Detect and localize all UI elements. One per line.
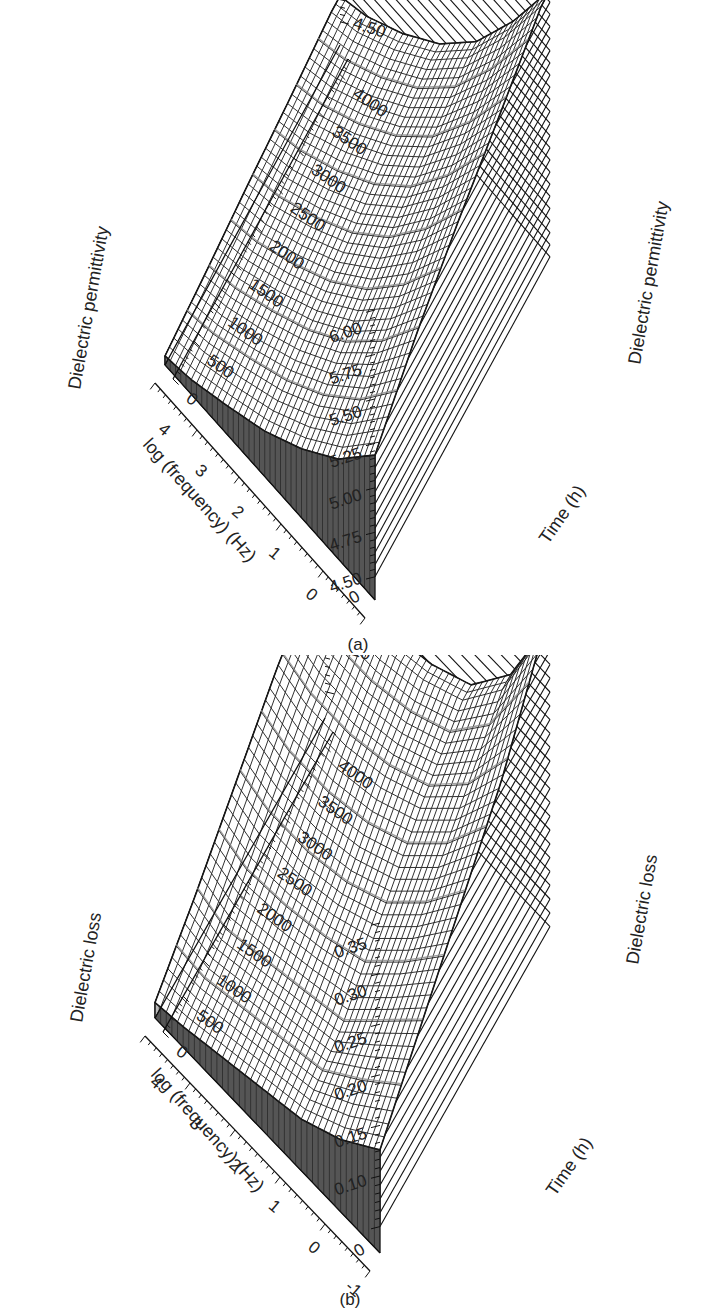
z-axis-title-right: Dielectric loss: [622, 853, 661, 966]
x-tick-label: 1: [265, 543, 284, 564]
surface-plot-permittivity: 01234050010001500200025003000350040004.5…: [0, 0, 717, 655]
chart-panel-b: -101234050010001500200025003000350040000…: [0, 655, 717, 1311]
surface-plot-loss: -101234050010001500200025003000350040000…: [0, 655, 717, 1311]
chart-panel-a: 01234050010001500200025003000350040004.5…: [0, 0, 717, 655]
caption-a: (a): [348, 635, 369, 654]
z-axis-title-right: Dielectric permittivity: [624, 200, 672, 366]
x-tick-label: 0: [304, 1237, 323, 1258]
z-axis-title-left: Dielectric permittivity: [64, 225, 112, 391]
z-axis-title-left: Dielectric loss: [66, 911, 105, 1024]
corner-zero-label: 0: [350, 1240, 368, 1261]
x-tick-label: 1: [265, 1196, 284, 1217]
caption-b: (b): [340, 1290, 361, 1309]
x-tick-label: 0: [302, 584, 321, 605]
corner-zero-label: 0: [345, 587, 363, 608]
y-axis-title: Time (h): [542, 1133, 596, 1199]
x-axis-title: log (frequency) (Hz): [139, 434, 260, 566]
y-axis-title: Time (h): [535, 481, 589, 547]
